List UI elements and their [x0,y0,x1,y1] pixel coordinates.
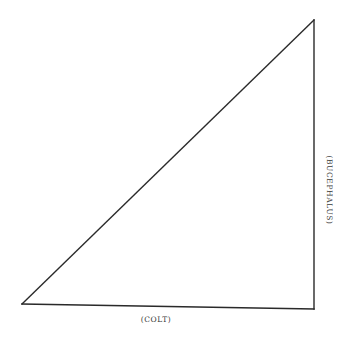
triangle-diagram: (COLT) (BUCEPHALUS) [0,0,349,343]
bucephalus-label: (BUCEPHALUS) [325,155,334,224]
hypotenuse-edge [22,20,314,304]
colt-label: (COLT) [141,315,172,324]
base-edge [22,304,314,309]
